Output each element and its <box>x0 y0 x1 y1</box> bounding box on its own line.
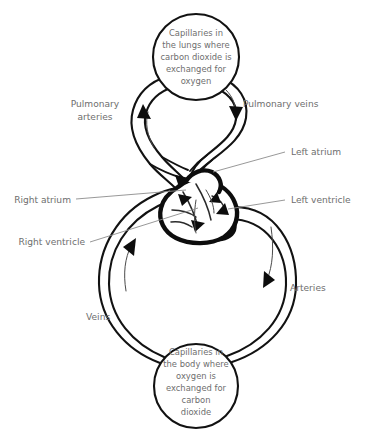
label-pulmonary-veins: Pulmonary veins <box>243 99 319 109</box>
flow-arrow-veins <box>123 238 136 291</box>
label-right-atrium: Right atrium <box>14 195 71 205</box>
circulation-diagram: Capillaries in the lungs where carbon di… <box>0 0 375 432</box>
label-arteries: Arteries <box>290 283 326 293</box>
body-line-2: the body where <box>163 359 229 369</box>
lungs-line-4: exchanged for <box>166 64 227 74</box>
body-line-6: dioxide <box>181 407 211 417</box>
label-veins: Veins <box>86 312 110 322</box>
body-line-5: carbon <box>182 395 211 405</box>
pulmonary-arteries-line-1: Pulmonary <box>71 99 120 109</box>
lungs-line-3: carbon dioxide is <box>160 52 231 62</box>
lungs-line-5: oxygen <box>181 76 212 86</box>
body-line-1: Capillaries in <box>169 347 223 357</box>
label-right-ventricle: Right ventricle <box>18 237 85 247</box>
body-line-4: exchanged for <box>166 383 227 393</box>
arteries-vessel <box>227 207 296 362</box>
label-left-atrium: Left atrium <box>291 147 341 157</box>
label-left-ventricle: Left ventricle <box>291 195 351 205</box>
flow-arrow-pulmonary-vein <box>226 90 243 121</box>
leader-left-atrium <box>213 152 285 172</box>
pulmonary-arteries-line-2: arteries <box>77 112 112 122</box>
circulation-illustration: Capillaries in the lungs where carbon di… <box>0 0 375 432</box>
lungs-line-1: Capillaries in <box>169 28 223 38</box>
label-pulmonary-arteries: Pulmonary arteries <box>71 99 120 122</box>
body-line-3: oxygen is <box>176 371 216 381</box>
lungs-line-2: the lungs where <box>162 40 229 50</box>
